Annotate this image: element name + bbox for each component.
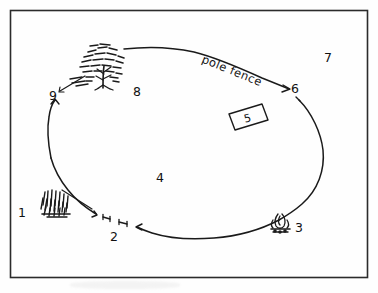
- enclosure-bottom-rail: [137, 220, 279, 239]
- campfire-illustration: [271, 214, 290, 233]
- tree-illustration: [70, 44, 124, 90]
- callout-label-1: 1: [18, 207, 26, 220]
- bush-clump-illustration: [41, 190, 70, 217]
- enclosure-east-start-tick: [296, 97, 300, 101]
- callout-label-6: 6: [291, 83, 299, 96]
- callout-label-4: 4: [156, 172, 164, 185]
- callout-label-3: 3: [295, 222, 303, 235]
- fence-gap-dash-2: [103, 217, 110, 219]
- callout-label-8: 8: [133, 86, 141, 99]
- fence-arrowhead-gap-east: [136, 224, 142, 230]
- sketch-canvas: [0, 0, 378, 293]
- callout-label-9: 9: [49, 90, 57, 103]
- enclosure-east-curve: [279, 100, 323, 220]
- fence-gap-dash-1: [119, 222, 127, 224]
- enclosure-west-curve: [48, 100, 55, 158]
- callout-label-2: 2: [110, 231, 118, 244]
- sketch-figure: pole fence 1 2 3 4 5 6 7 8 9: [0, 0, 378, 293]
- enclosure-southwest-rail: [51, 158, 96, 214]
- callout-label-7: 7: [324, 52, 332, 65]
